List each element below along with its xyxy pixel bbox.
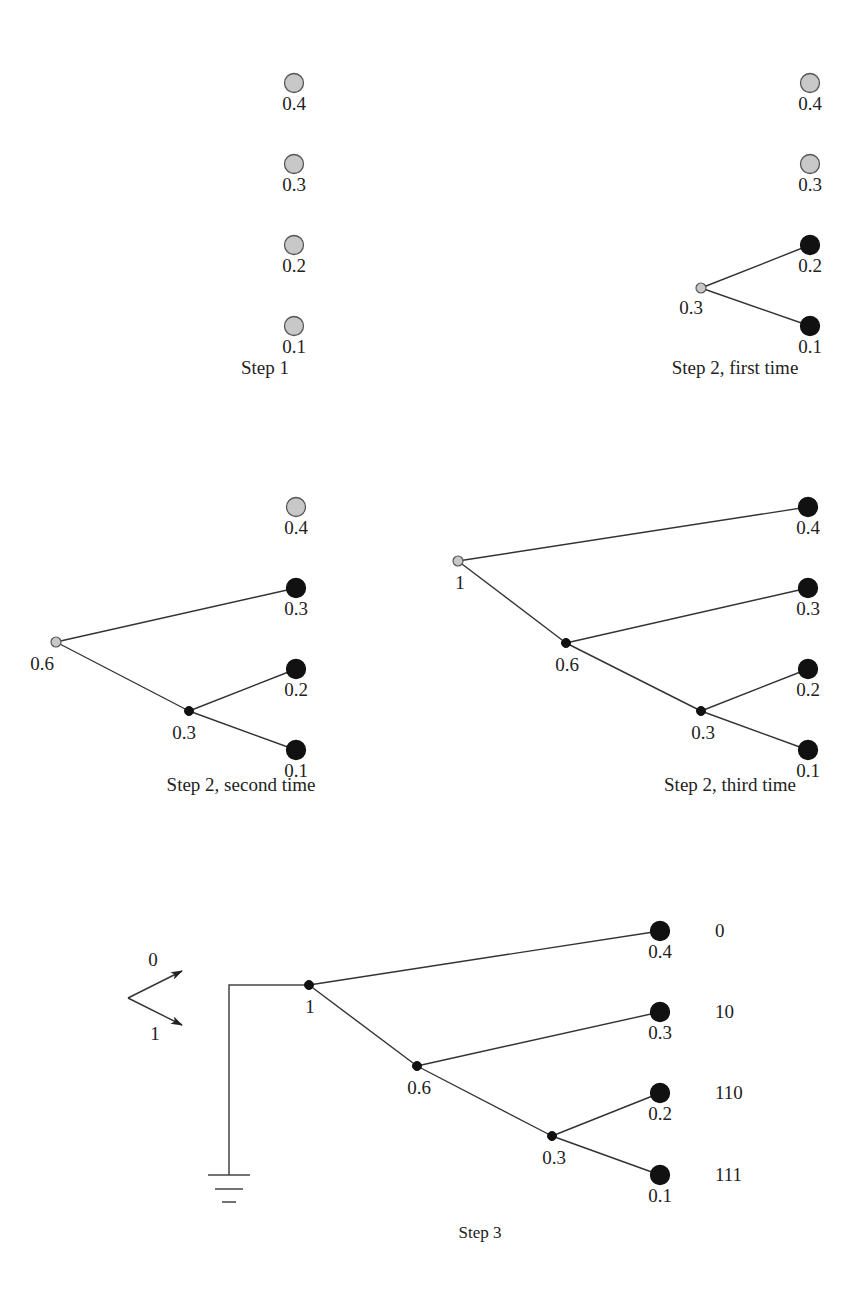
tree-edge (552, 1136, 660, 1175)
internal-node-weight: 1 (455, 572, 465, 593)
leaf-probability: 0.4 (798, 93, 822, 114)
leaf-probability: 0.3 (284, 598, 308, 619)
leaf-node-merged (799, 579, 818, 598)
leaf-node-merged (651, 1166, 670, 1185)
internal-node-pending (696, 283, 706, 293)
arrow-down-right-icon (128, 998, 182, 1025)
leaf-probability: 0.4 (282, 93, 306, 114)
leaf-probability: 0.4 (648, 941, 672, 962)
leaf-node-merged (801, 236, 820, 255)
leaf-probability: 0.2 (796, 679, 820, 700)
arrow-up-right-icon (128, 971, 182, 998)
internal-node-weight: 0.6 (30, 653, 54, 674)
tree-edge (417, 1012, 660, 1066)
internal-node-weight: 0.3 (691, 722, 715, 743)
legend-label-0: 0 (148, 949, 158, 970)
caption-step3: Step 3 (459, 1223, 502, 1242)
internal-node-merged (305, 981, 314, 990)
caption-step2-third: Step 2, third time (664, 774, 796, 795)
leaf-node-merged (287, 741, 306, 760)
leaf-node-pending (801, 155, 820, 174)
leaf-node-pending (801, 74, 820, 93)
internal-node-weight: 0.6 (555, 654, 579, 675)
leaf-probability: 0.4 (796, 517, 820, 538)
legend-label-1: 1 (150, 1023, 160, 1044)
caption-step1: Step 1 (241, 357, 289, 378)
panel-step2-second: 0.60.30.40.30.20.1 (30, 498, 308, 782)
tree-edge (189, 669, 296, 711)
tree-edge (701, 669, 808, 711)
leaf-node-merged (799, 741, 818, 760)
ground-symbol-icon (208, 985, 309, 1202)
leaf-probability: 0.3 (282, 174, 306, 195)
internal-node-weight: 0.3 (679, 297, 703, 318)
internal-node-merged (697, 707, 706, 716)
internal-node-merged (413, 1062, 422, 1071)
leaf-node-merged (651, 1084, 670, 1103)
tree-edge (552, 1093, 660, 1136)
leaf-probability: 0.1 (282, 336, 306, 357)
internal-node-pending (51, 637, 61, 647)
leaf-node-pending (285, 317, 304, 336)
panel-step1: 0.40.30.20.1 (282, 74, 306, 358)
leaf-probability: 0.3 (796, 598, 820, 619)
leaf-node-pending (285, 155, 304, 174)
leaf-probability: 0.1 (648, 1185, 672, 1206)
leaf-node-pending (285, 74, 304, 93)
tree-edge (458, 507, 808, 561)
tree-edge (701, 711, 808, 750)
leaf-probability: 0.3 (798, 174, 822, 195)
leaf-node-merged (651, 922, 670, 941)
tree-edge (701, 245, 810, 288)
leaf-node-pending (285, 236, 304, 255)
leaf-probability: 0.1 (796, 760, 820, 781)
panel-step2-third: 10.60.30.40.30.20.1 (453, 498, 820, 782)
tree-edge (458, 561, 566, 643)
tree-edge (56, 588, 296, 642)
tree-edge (309, 931, 660, 985)
internal-node-pending (453, 556, 463, 566)
leaf-probability: 0.2 (648, 1103, 672, 1124)
leaf-node-merged (801, 317, 820, 336)
caption-step2-second: Step 2, second time (167, 774, 316, 795)
internal-node-merged (548, 1132, 557, 1141)
tree-edge (189, 711, 296, 750)
panels-layer: 0.40.30.20.10.30.40.30.20.10.60.30.40.30… (30, 74, 822, 1207)
internal-node-weight: 0.3 (172, 722, 196, 743)
leaf-probability: 0.2 (798, 255, 822, 276)
tree-edge (566, 588, 808, 643)
leaf-node-pending (287, 498, 306, 517)
huffman-codeword: 111 (715, 1164, 742, 1185)
internal-node-weight: 0.3 (542, 1147, 566, 1168)
leaf-node-merged (287, 579, 306, 598)
huffman-codeword: 0 (715, 920, 725, 941)
leaf-probability: 0.2 (284, 679, 308, 700)
panel-step2-first: 0.30.40.30.20.1 (679, 74, 822, 358)
tree-edge (309, 985, 417, 1066)
panel-step3: 0110.60.30.400.3100.21100.1111 (128, 920, 743, 1206)
leaf-node-merged (799, 660, 818, 679)
internal-node-merged (185, 707, 194, 716)
internal-node-weight: 0.6 (407, 1077, 431, 1098)
leaf-node-merged (287, 660, 306, 679)
huffman-codeword: 110 (715, 1082, 743, 1103)
leaf-probability: 0.4 (284, 517, 308, 538)
internal-node-merged (562, 639, 571, 648)
caption-step2-first: Step 2, first time (672, 357, 799, 378)
leaf-node-merged (651, 1003, 670, 1022)
huffman-tree-construction-diagram: 0.40.30.20.10.30.40.30.20.10.60.30.40.30… (0, 0, 866, 1295)
leaf-probability: 0.2 (282, 255, 306, 276)
tree-edge (566, 643, 701, 711)
huffman-codeword: 10 (715, 1001, 734, 1022)
internal-node-weight: 1 (305, 996, 315, 1017)
branch-direction-legend: 01 (128, 949, 182, 1044)
tree-edge (417, 1066, 552, 1136)
root-wire (229, 985, 309, 1175)
tree-edge (56, 642, 189, 711)
leaf-probability: 0.1 (798, 336, 822, 357)
leaf-node-merged (799, 498, 818, 517)
tree-edge (701, 288, 810, 326)
leaf-probability: 0.3 (648, 1022, 672, 1043)
